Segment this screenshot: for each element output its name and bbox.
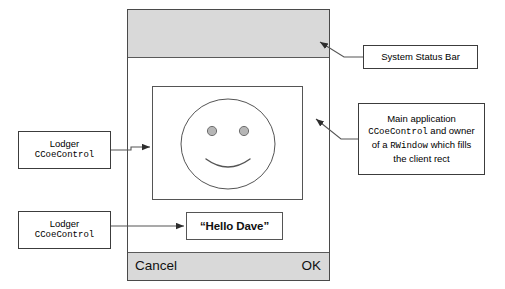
- callout-lodger-smiley: Lodger CCoeControl: [18, 131, 111, 169]
- ok-button[interactable]: OK: [301, 258, 321, 273]
- hello-dave-lodger-control[interactable]: “Hello Dave”: [186, 212, 283, 240]
- callout-main-application-line2: CCoeControl and owner: [368, 125, 474, 139]
- callout-main-application-line3-head: of a: [372, 139, 391, 150]
- hello-dave-label: “Hello Dave”: [200, 220, 269, 232]
- callout-main-application-line3: of a RWindow which fills: [372, 139, 472, 153]
- system-status-bar: [128, 10, 329, 58]
- callout-main-application-line4: the client rect: [393, 153, 450, 165]
- callout-main-application-class: CCoeControl: [368, 127, 427, 137]
- callout-lodger-hello-class: CCoeControl: [35, 230, 94, 242]
- callout-main-application-line1: Main application: [387, 113, 456, 125]
- callout-main-application-window-class: RWindow: [390, 141, 428, 151]
- callout-main-application-line3-tail: which fills: [428, 139, 471, 150]
- smiley-face-icon: [153, 87, 304, 201]
- callout-lodger-hello-line1: Lodger: [50, 218, 80, 230]
- diagram-canvas: “Hello Dave” Cancel OK Lodger CCoeContro…: [0, 0, 505, 289]
- cancel-button[interactable]: Cancel: [135, 258, 177, 273]
- callout-lodger-hello: Lodger CCoeControl: [18, 211, 111, 249]
- command-button-area: Cancel OK: [128, 252, 329, 280]
- callout-lodger-smiley-class: CCoeControl: [35, 150, 94, 162]
- callout-main-application: Main application CCoeControl and owner o…: [358, 103, 485, 175]
- callout-main-application-line2-tail: and owner: [428, 125, 475, 136]
- smiley-lodger-control[interactable]: [152, 86, 303, 200]
- callout-system-status-bar-line1: System Status Bar: [381, 51, 460, 63]
- callout-system-status-bar: System Status Bar: [363, 45, 478, 69]
- callout-lodger-smiley-line1: Lodger: [50, 138, 80, 150]
